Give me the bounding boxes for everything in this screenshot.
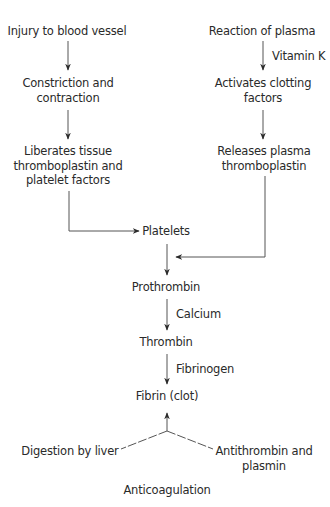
node-text: Releases plasma [217, 144, 310, 159]
node-constriction: Constriction and contraction [22, 76, 113, 105]
node-text: Fibrin (clot) [136, 389, 199, 404]
node-text: platelet factors [13, 173, 122, 188]
edge-label-vitamin-k: Vitamin K [272, 49, 325, 63]
edge-label-calcium: Calcium [176, 307, 221, 321]
arrow-releases-to-center [176, 176, 265, 257]
node-text: Constriction and [22, 76, 113, 91]
node-text: Reaction of plasma [209, 24, 316, 39]
node-text: plasmin [215, 459, 312, 474]
node-releases: Releases plasma thromboplastin [217, 144, 310, 173]
node-fibrin: Fibrin (clot) [136, 389, 199, 404]
node-reaction: Reaction of plasma [209, 24, 316, 39]
node-activates: Activates clotting factors [215, 76, 312, 105]
node-text: Prothrombin [132, 280, 200, 295]
node-text: contraction [22, 91, 113, 106]
node-digestion-by-liver: Digestion by liver [21, 444, 118, 459]
node-text: thromboplastin [217, 159, 310, 174]
node-antithrombin-plasmin: Antithrombin and plasmin [215, 444, 312, 473]
anticoagulation-caption: Anticoagulation [123, 483, 210, 498]
dashed-line-liver [121, 431, 167, 449]
edge-label-fibrinogen: Fibrinogen [176, 362, 234, 376]
node-platelets: Platelets [142, 224, 190, 239]
dashed-line-antithrombin [167, 431, 213, 449]
node-text: Platelets [142, 224, 190, 239]
node-text: thromboplastin and [13, 159, 122, 174]
node-liberates: Liberates tissue thromboplastin and plat… [13, 144, 122, 188]
node-text: Activates clotting [215, 76, 312, 91]
node-thrombin: Thrombin [139, 335, 192, 350]
node-text: Digestion by liver [21, 444, 118, 459]
arrow-liberates-to-platelets [69, 191, 139, 231]
node-text: Liberates tissue [13, 144, 122, 159]
node-text: Thrombin [139, 335, 192, 350]
node-text: Antithrombin and [215, 444, 312, 459]
node-text: factors [215, 91, 312, 106]
node-prothrombin: Prothrombin [132, 280, 200, 295]
node-text: Injury to blood vessel [8, 24, 127, 39]
node-injury: Injury to blood vessel [8, 24, 127, 39]
